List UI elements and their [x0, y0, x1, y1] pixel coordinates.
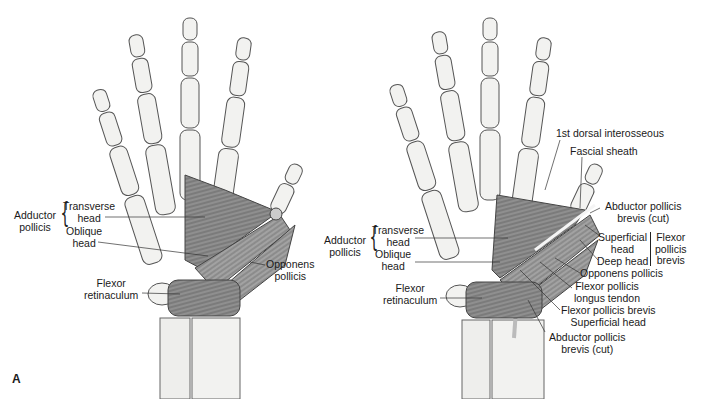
label-fpb-superficial-head: Flexor pollicis brevis Superficial head	[561, 305, 656, 328]
label-line: head	[375, 261, 411, 273]
label-line: Flexor pollicis brevis	[561, 305, 656, 317]
label-line: head	[66, 238, 102, 250]
label-line: Abductor pollicis	[549, 332, 625, 344]
label-line: Abductor pollicis	[605, 201, 681, 213]
label-line: head	[63, 213, 115, 225]
label-line: Adductor	[14, 210, 56, 222]
label-left-flexor-retinaculum: Flexor retinaculum	[84, 278, 138, 301]
label-line: retinaculum	[383, 295, 437, 307]
label-line: Adductor	[324, 235, 366, 247]
left-hand-illustration	[88, 18, 305, 399]
label-left-oblique-head: Oblique head	[66, 226, 102, 249]
label-left-transverse-head: Transverse head	[63, 201, 115, 224]
label-line: longus tendon	[574, 293, 640, 305]
label-flexor-pollicis-brevis: Flexor pollicis brevis	[655, 232, 687, 267]
label-line: pollicis	[14, 222, 56, 234]
label-right-transverse-head: Transverse head	[372, 225, 424, 248]
label-line: head	[598, 244, 647, 256]
label-line: brevis (cut)	[549, 344, 625, 356]
label-abductor-pollicis-brevis-cut-top: Abductor pollicis brevis (cut)	[605, 201, 681, 224]
label-line: brevis (cut)	[605, 213, 681, 225]
panel-letter: A	[12, 372, 21, 386]
label-line: Oblique	[66, 226, 102, 238]
label-fascial-sheath: Fascial sheath	[570, 146, 638, 158]
label-line: head	[372, 237, 424, 249]
bracket-flexor-pollicis-brevis	[650, 232, 651, 266]
label-line: pollicis	[324, 247, 366, 259]
label-right-oblique-head: Oblique head	[375, 249, 411, 272]
label-line: retinaculum	[84, 290, 138, 302]
label-line: Oblique	[375, 249, 411, 261]
label-superficial-head: Superficial head	[598, 232, 647, 255]
label-line: Opponens	[266, 259, 314, 271]
label-line: Flexor	[383, 283, 437, 295]
label-left-adductor-pollicis: Adductor pollicis	[14, 210, 56, 233]
label-line: Flexor	[655, 232, 687, 244]
label-line: Transverse	[372, 225, 424, 237]
label-first-dorsal-interosseous: 1st dorsal interosseous	[556, 128, 664, 140]
label-right-adductor-pollicis: Adductor pollicis	[324, 235, 366, 258]
label-deep-head: Deep head	[597, 256, 648, 268]
label-line: Superficial head	[561, 317, 656, 329]
label-left-opponens-pollicis: Opponens pollicis	[266, 259, 314, 282]
label-line: Flexor pollicis	[574, 281, 640, 293]
label-right-flexor-retinaculum: Flexor retinaculum	[383, 283, 437, 306]
label-line: Superficial	[598, 232, 647, 244]
label-line: Flexor	[84, 278, 138, 290]
label-flexor-pollicis-longus-tendon: Flexor pollicis longus tendon	[574, 281, 640, 304]
label-abductor-pollicis-brevis-cut-bottom: Abductor pollicis brevis (cut)	[549, 332, 625, 355]
label-opponens-pollicis: Opponens pollicis	[580, 268, 663, 280]
label-line: pollicis	[266, 271, 314, 283]
label-line: Transverse	[63, 201, 115, 213]
label-line: brevis	[655, 255, 687, 267]
